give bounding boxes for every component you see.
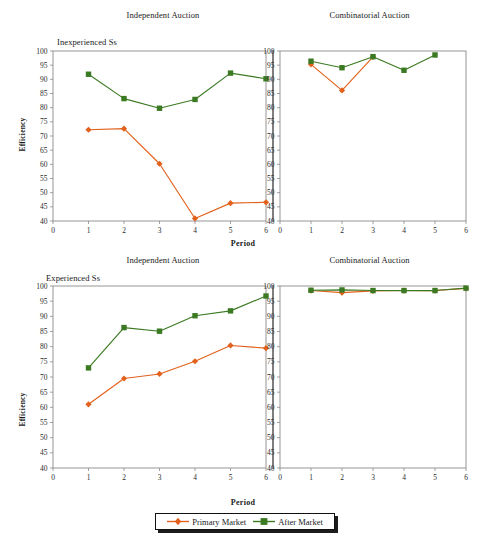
y-tick-label: 95 xyxy=(40,297,48,306)
chart-legend: Primary Market After Market xyxy=(155,513,335,530)
x-tick-label: 3 xyxy=(158,473,162,482)
y-tick-label: 85 xyxy=(40,89,48,98)
y-tick-label: 55 xyxy=(40,418,48,427)
marker-square xyxy=(121,325,126,330)
x-tick-label: 0 xyxy=(51,226,55,235)
y-tick-label: 90 xyxy=(40,312,48,321)
marker-diamond xyxy=(227,342,233,348)
plot-frame xyxy=(53,51,266,221)
y-tick-label: 95 xyxy=(40,61,48,70)
y-tick-label: 50 xyxy=(40,188,48,197)
y-tick-label: 45 xyxy=(40,448,48,457)
y-tick-label: 55 xyxy=(40,174,48,183)
series-line-after-market xyxy=(311,288,466,290)
marker-square xyxy=(401,68,406,73)
x-tick-label: 5 xyxy=(433,473,437,482)
x-tick-label: 2 xyxy=(122,473,126,482)
y-tick-label: 65 xyxy=(40,388,48,397)
marker-diamond xyxy=(156,371,162,377)
marker-square xyxy=(339,65,344,70)
x-tick-label: 2 xyxy=(340,473,344,482)
x-tick-label: 6 xyxy=(264,473,268,482)
panel-top-left: 4045505560657075808590951000123456 xyxy=(36,47,269,235)
x-tick-label: 0 xyxy=(51,473,55,482)
marker-square xyxy=(463,285,468,290)
y-tick-label: 70 xyxy=(40,132,48,141)
marker-square xyxy=(432,288,437,293)
x-tick-label: 6 xyxy=(464,226,468,235)
plot-frame xyxy=(280,286,466,468)
y-tick-label: 85 xyxy=(40,327,48,336)
legend-item-primary-market: Primary Market xyxy=(167,516,246,527)
y-tick-label: 75 xyxy=(40,117,48,126)
plot-area-bottom: 4045505560657075808590951000123456404550… xyxy=(0,255,488,546)
marker-square xyxy=(192,313,197,318)
x-tick-label: 4 xyxy=(193,226,197,235)
series-line-after-market xyxy=(89,296,267,368)
x-tick-label: 6 xyxy=(464,473,468,482)
marker-square xyxy=(228,308,233,313)
x-tick-label: 0 xyxy=(278,473,282,482)
x-tick-label: 1 xyxy=(309,226,313,235)
y-tick-label: 100 xyxy=(36,282,48,291)
marker-diamond xyxy=(192,358,198,364)
panel-bottom-left: 4045505560657075808590951000123456 xyxy=(36,282,269,482)
panel-block-inexperienced: Independent Auction Combinatorial Auctio… xyxy=(0,0,488,252)
x-tick-label: 5 xyxy=(229,226,233,235)
after-market-swatch-icon xyxy=(253,516,275,527)
marker-square xyxy=(86,72,91,77)
series-line-primary-market xyxy=(89,129,267,219)
y-tick-label: 65 xyxy=(40,146,48,155)
y-tick-label: 75 xyxy=(40,357,48,366)
series-line-primary-market xyxy=(311,57,373,90)
panel-block-experienced: Independent Auction Combinatorial Auctio… xyxy=(0,255,488,546)
x-tick-label: 4 xyxy=(402,226,406,235)
x-tick-label: 4 xyxy=(402,473,406,482)
marker-square xyxy=(339,287,344,292)
y-tick-label: 80 xyxy=(40,342,48,351)
marker-square xyxy=(370,54,375,59)
y-tick-label: 90 xyxy=(40,75,48,84)
series-line-primary-market xyxy=(89,345,267,404)
panel-top-right: 4045505560657075808590951000123456 xyxy=(263,47,468,235)
marker-square xyxy=(432,52,437,57)
x-tick-label: 6 xyxy=(264,226,268,235)
y-tick-label: 45 xyxy=(40,202,48,211)
primary-market-swatch-icon xyxy=(167,516,189,527)
legend-label-primary-market: Primary Market xyxy=(192,517,246,527)
x-tick-label: 2 xyxy=(122,226,126,235)
marker-square xyxy=(370,288,375,293)
marker-diamond xyxy=(85,127,91,133)
marker-square xyxy=(308,59,313,64)
y-tick-label: 80 xyxy=(40,103,48,112)
marker-square xyxy=(401,288,406,293)
x-tick-label: 5 xyxy=(229,473,233,482)
y-tick-label: 40 xyxy=(40,217,48,226)
marker-square xyxy=(308,288,313,293)
marker-square xyxy=(86,365,91,370)
x-tick-label: 3 xyxy=(371,226,375,235)
marker-square xyxy=(192,97,197,102)
x-tick-label: 0 xyxy=(278,226,282,235)
x-tick-label: 3 xyxy=(158,226,162,235)
x-tick-label: 2 xyxy=(340,226,344,235)
y-tick-label: 60 xyxy=(40,403,48,412)
marker-square xyxy=(157,106,162,111)
marker-square xyxy=(157,328,162,333)
plot-area-top: 4045505560657075808590951000123456404550… xyxy=(0,0,488,252)
x-tick-label: 5 xyxy=(433,226,437,235)
x-tick-label: 3 xyxy=(371,473,375,482)
series-line-after-market xyxy=(89,73,267,108)
x-tick-label: 4 xyxy=(193,473,197,482)
y-tick-label: 100 xyxy=(36,47,48,56)
x-tick-label: 1 xyxy=(87,473,91,482)
x-tick-label: 1 xyxy=(87,226,91,235)
marker-diamond xyxy=(227,200,233,206)
marker-square xyxy=(228,70,233,75)
x-tick-label: 1 xyxy=(309,473,313,482)
y-tick-label: 40 xyxy=(40,464,48,473)
panel-bottom-right: 4045505560657075808590951000123456 xyxy=(263,282,469,482)
plot-frame xyxy=(280,51,466,221)
y-tick-label: 60 xyxy=(40,160,48,169)
legend-label-after-market: After Market xyxy=(278,517,323,527)
